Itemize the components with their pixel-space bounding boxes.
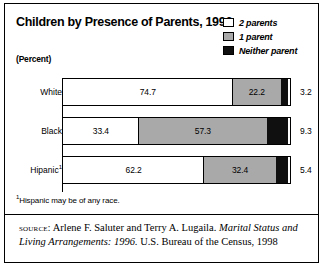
bar-row: Hipanic1 62.2 32.4 5.4 (5, 156, 320, 184)
source-kicker: source: (19, 223, 51, 233)
bar-value-neither-parent: 3.2 (300, 87, 312, 97)
legend-swatch-two-parents (223, 18, 234, 27)
source-publisher: U.S. Bureau of the Census, 1998 (138, 236, 278, 247)
bar-value-one-parent: 22.2 (249, 87, 265, 97)
stacked-bar-white: 74.7 22.2 (62, 78, 291, 106)
bar-segment-two-parents: 62.2 (63, 157, 204, 183)
category-label-black: Black (41, 126, 62, 136)
bar-segment-neither-parent (276, 157, 288, 183)
legend-label-two-parents: 2 parents (239, 18, 277, 28)
chart-legend: 2 parents 1 parent Neither parent (223, 16, 318, 58)
source-note: source: Arlene F. Saluter and Terry A. L… (19, 221, 304, 248)
bar-row: Black 33.4 57.3 9.3 (5, 117, 320, 145)
bar-segment-two-parents: 74.7 (63, 79, 233, 105)
category-label-white: White (40, 87, 62, 97)
axis-unit-label: (Percent) (16, 54, 51, 64)
bar-value-two-parents: 33.4 (93, 126, 109, 136)
bar-value-two-parents: 62.2 (126, 165, 142, 175)
chart-figure: Children by Presence of Parents, 1996 2 … (4, 3, 319, 263)
bar-segment-neither-parent (267, 118, 288, 144)
legend-label-one-parent: 1 parent (239, 32, 272, 42)
bar-segment-one-parent: 32.4 (203, 157, 277, 183)
bar-segment-one-parent: 57.3 (138, 118, 268, 144)
legend-item-one-parent: 1 parent (223, 30, 318, 43)
bar-value-two-parents: 74.7 (140, 87, 156, 97)
source-authors: Arlene F. Saluter and Terry A. Lugaila. (51, 222, 219, 233)
legend-label-neither-parent: Neither parent (239, 46, 297, 56)
bar-value-one-parent: 32.4 (232, 165, 248, 175)
bar-segment-two-parents: 33.4 (63, 118, 139, 144)
category-label-hispanic-text: Hipanic (30, 165, 58, 175)
chart-title: Children by Presence of Parents, 1996 (16, 15, 232, 29)
source-divider (5, 214, 318, 215)
chart-footnote: 1Hispanic may be of any race. (16, 196, 120, 205)
category-label-hispanic: Hipanic1 (30, 165, 62, 175)
stacked-bar-hispanic: 62.2 32.4 (62, 156, 291, 184)
bar-value-neither-parent: 9.3 (300, 126, 312, 136)
bar-segment-neither-parent (281, 79, 288, 105)
legend-swatch-neither-parent (223, 46, 234, 55)
legend-item-neither-parent: Neither parent (223, 44, 318, 57)
legend-swatch-one-parent (223, 32, 234, 41)
plot-area: White 74.7 22.2 3.2 Black 33.4 57.3 (5, 74, 320, 192)
bar-row: White 74.7 22.2 3.2 (5, 78, 320, 106)
legend-item-two-parents: 2 parents (223, 16, 318, 29)
bar-segment-one-parent: 22.2 (232, 79, 282, 105)
stacked-bar-black: 33.4 57.3 (62, 117, 291, 145)
footnote-text: Hispanic may be of any race. (19, 196, 119, 205)
bar-value-neither-parent: 5.4 (300, 165, 312, 175)
bar-value-one-parent: 57.3 (195, 126, 211, 136)
